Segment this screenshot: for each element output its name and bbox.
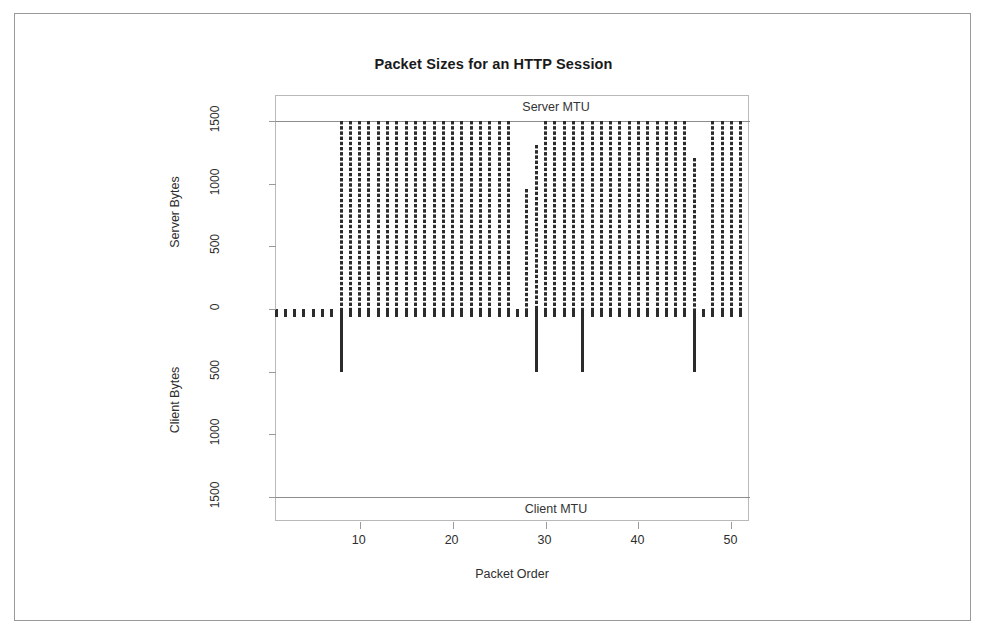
bar-client <box>609 309 612 317</box>
bar-server <box>451 121 454 309</box>
bar-client <box>702 309 705 317</box>
y-axis-tick <box>269 246 276 247</box>
bar-client <box>293 309 296 317</box>
bar-server <box>544 121 547 309</box>
bar-client <box>367 309 370 317</box>
y-axis-tick-label: 500 <box>208 340 222 400</box>
bar-client <box>711 309 714 317</box>
bar-server <box>414 121 417 309</box>
x-axis-tick <box>731 522 732 529</box>
bar-server <box>674 121 677 309</box>
bar-server <box>591 121 594 309</box>
bar-server <box>488 121 491 309</box>
bar-client <box>563 309 566 317</box>
bar-server <box>553 121 556 309</box>
bar-client <box>674 309 677 317</box>
y-axis-tick <box>269 497 276 498</box>
bar-server <box>646 121 649 309</box>
bar-client <box>646 309 649 317</box>
x-axis-tick-label: 30 <box>521 533 569 547</box>
bar-client <box>442 309 445 317</box>
bar-server <box>433 121 436 309</box>
x-axis-tick <box>453 522 454 529</box>
bar-client <box>618 309 621 317</box>
bar-server <box>581 121 584 309</box>
bar-client <box>628 309 631 317</box>
bar-client <box>507 309 510 317</box>
y-axis-tick <box>269 434 276 435</box>
x-axis-tick-label: 50 <box>706 533 754 547</box>
bar-server <box>442 121 445 309</box>
bar-client <box>581 309 584 372</box>
bar-client <box>423 309 426 317</box>
bar-server <box>525 189 528 309</box>
x-axis-tick <box>638 522 639 529</box>
bar-server <box>507 121 510 309</box>
bar-server <box>460 121 463 309</box>
bar-server <box>665 121 668 309</box>
bar-server <box>618 121 621 309</box>
bar-client <box>414 309 417 317</box>
bar-server <box>730 121 733 309</box>
bar-server <box>498 121 501 309</box>
bar-client <box>498 309 501 317</box>
figure-page: Packet Sizes for an HTTP Session Server … <box>0 0 987 637</box>
bar-server <box>386 121 389 309</box>
bar-client <box>284 309 287 317</box>
bar-server <box>628 121 631 309</box>
bar-client <box>312 309 315 317</box>
bar-server <box>683 121 686 309</box>
y-axis-tick-label: 1500 <box>208 465 222 525</box>
bar-server <box>349 121 352 309</box>
y-axis-tick-label: 500 <box>208 214 222 274</box>
bar-client <box>665 309 668 317</box>
reference-line-client-mtu <box>276 497 750 498</box>
bar-client <box>525 309 528 317</box>
bar-client <box>600 309 603 317</box>
y-axis-tick <box>269 184 276 185</box>
bar-server <box>340 121 343 309</box>
y-axis-tick <box>269 121 276 122</box>
x-axis-tick <box>360 522 361 529</box>
bar-client <box>739 309 742 317</box>
reference-line-server-mtu <box>276 121 750 122</box>
x-axis-tick-label: 20 <box>428 533 476 547</box>
bar-client <box>451 309 454 317</box>
bar-server <box>479 121 482 309</box>
bar-client <box>460 309 463 317</box>
bar-client <box>721 309 724 317</box>
y-axis-tick <box>269 372 276 373</box>
bar-client <box>395 309 398 317</box>
bar-client <box>535 309 538 372</box>
bar-server <box>600 121 603 309</box>
bar-client <box>553 309 556 317</box>
bar-client <box>516 309 519 317</box>
bar-server <box>656 121 659 309</box>
bar-server <box>711 121 714 309</box>
y-axis-tick-label: 1000 <box>208 152 222 212</box>
bar-server <box>572 121 575 309</box>
y-axis-tick <box>269 309 276 310</box>
bar-client <box>470 309 473 317</box>
bar-server <box>358 121 361 309</box>
bar-client <box>488 309 491 317</box>
bar-client <box>349 309 352 317</box>
bar-client <box>302 309 305 317</box>
bar-client <box>377 309 380 317</box>
bar-client <box>591 309 594 317</box>
bar-client <box>544 309 547 317</box>
annotation-server-mtu: Server MTU <box>456 100 656 114</box>
bar-client <box>386 309 389 317</box>
bar-client <box>321 309 324 317</box>
bar-server <box>739 121 742 309</box>
bar-server <box>637 121 640 309</box>
bar-client <box>330 309 333 317</box>
bar-server <box>377 121 380 309</box>
bar-server <box>470 121 473 309</box>
bar-client <box>572 309 575 317</box>
x-axis-tick <box>546 522 547 529</box>
bar-server <box>367 121 370 309</box>
bar-client <box>479 309 482 317</box>
bar-client <box>433 309 436 317</box>
x-axis-tick-label: 40 <box>613 533 661 547</box>
